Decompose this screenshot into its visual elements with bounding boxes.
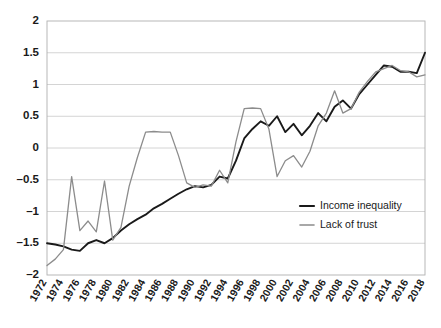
y-tick-label: –1 [26, 205, 39, 217]
legend-label-0: Income inequality [320, 199, 402, 211]
y-tick-label: 0.5 [23, 109, 40, 121]
y-tick-label: 2 [33, 14, 39, 26]
y-tick-label: –0.5 [17, 173, 40, 185]
y-tick-label: 1 [33, 78, 40, 90]
y-tick-label: 0 [33, 141, 39, 153]
line-chart: 21.510.50–0.5–1–1.5–2 197219741976197819… [0, 0, 441, 328]
legend-label-1: Lack of trust [320, 218, 377, 230]
y-tick-label: –1.5 [17, 236, 40, 248]
y-tick-label: 1.5 [23, 46, 40, 58]
chart-container: 21.510.50–0.5–1–1.5–2 197219741976197819… [0, 0, 441, 328]
